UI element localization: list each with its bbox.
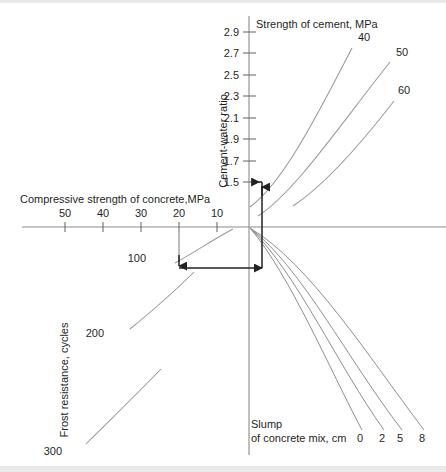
- slump-fan-lines: [250, 228, 424, 430]
- cement-strength-curves: [250, 48, 394, 216]
- cement-strength-curve-40: [250, 48, 352, 207]
- slump-label-0: 0: [357, 432, 363, 444]
- x-tick-label-30: 30: [135, 207, 147, 219]
- x-tick-label-40: 40: [97, 207, 109, 219]
- frost-resistance-curve-200: [130, 272, 194, 329]
- frost-resistance-axis-title: Frost resistance, cycles: [58, 322, 70, 437]
- cement-strength-label-40: 40: [358, 31, 370, 43]
- slump-label-5: 5: [397, 432, 403, 444]
- slump-label-8: 8: [419, 432, 425, 444]
- nomogram-svg: 2.9 2.7 2.5 2.3 2.1 1.9 1.7 1.5 50 40 30…: [0, 0, 446, 472]
- x-tick-label-50: 50: [59, 207, 71, 219]
- slump-axis-title-line1: Slump: [251, 418, 282, 430]
- slump-label-2: 2: [379, 432, 385, 444]
- x-tick-label-10: 10: [211, 207, 223, 219]
- slump-line-labels: 0 2 5 8: [357, 432, 425, 444]
- frost-resistance-label-300: 300: [44, 445, 62, 457]
- compressive-strength-axis-title: Compressive strength of concrete,MPa: [20, 193, 211, 205]
- frost-resistance-curve-100: [175, 229, 233, 263]
- cement-strength-label-60: 60: [398, 84, 410, 96]
- cement-strength-curve-50: [258, 62, 390, 216]
- x-axis-tick-labels: 50 40 30 20 10: [59, 207, 223, 219]
- cement-water-ratio-axis-title: Cement-water ratio: [217, 94, 229, 188]
- nomogram-figure: 2.9 2.7 2.5 2.3 2.1 1.9 1.7 1.5 50 40 30…: [0, 0, 446, 472]
- cement-strength-curve-60: [293, 101, 394, 206]
- slump-axis-title-line2: of concrete mix, cm: [251, 432, 346, 444]
- y-tick-label-2.9: 2.9: [224, 26, 239, 38]
- frost-resistance-curves: [86, 229, 233, 444]
- y-tick-label-2.7: 2.7: [224, 47, 239, 59]
- frost-resistance-curve-300: [86, 369, 161, 444]
- scan-edge-top: [0, 0, 446, 3]
- slump-line-0: [250, 228, 362, 430]
- x-tick-label-20: 20: [173, 207, 185, 219]
- frost-resistance-label-200: 200: [86, 327, 104, 339]
- y-tick-label-2.5: 2.5: [224, 69, 239, 81]
- cement-strength-group-title: Strength of cement, MPa: [256, 18, 379, 30]
- slump-line-2: [250, 228, 384, 430]
- cement-strength-label-50: 50: [396, 46, 408, 58]
- frost-resistance-label-100: 100: [128, 252, 146, 264]
- slump-line-5: [250, 228, 402, 430]
- scan-edge-bottom: [0, 466, 446, 472]
- cement-strength-curve-labels: 40 50 60: [358, 31, 410, 96]
